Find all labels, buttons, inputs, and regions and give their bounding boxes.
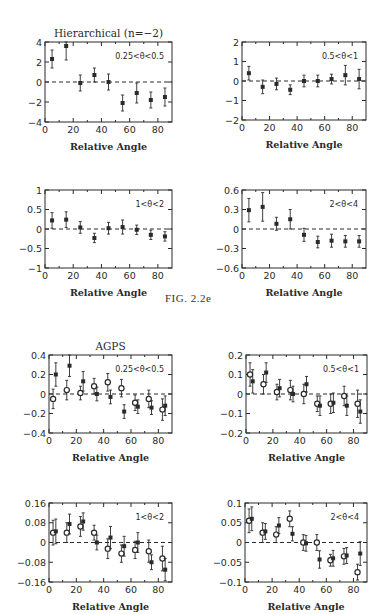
data-point-square [81, 379, 85, 383]
data-point-square [247, 71, 251, 75]
y-tick-label: −0.4 [23, 428, 46, 439]
data-point-square [121, 225, 125, 229]
data-point-square [109, 395, 113, 399]
x-tick-label: 80 [152, 270, 164, 281]
plot-panel: 020406080−0.1−0.0500.050.12<θ<4Relative … [213, 498, 367, 613]
data-point-square [358, 410, 362, 414]
x-tick-label: 20 [67, 270, 79, 281]
y-tick-label: 1 [233, 56, 239, 67]
y-tick-label: −2 [225, 115, 239, 126]
x-tick-label: 80 [152, 124, 164, 135]
data-point-square [163, 95, 167, 99]
x-tick-label: 40 [95, 124, 107, 135]
data-point-square [316, 79, 320, 83]
y-tick-label: 0 [233, 76, 239, 87]
x-tick-label: 20 [266, 584, 278, 595]
data-point-square [50, 218, 54, 222]
x-tick-label: 20 [70, 584, 82, 595]
plot-panel: 020406080−1−0.500.511<θ<2Relative Angle [19, 185, 172, 299]
data-point-square [358, 552, 362, 556]
x-tick-label: 60 [124, 124, 136, 135]
data-point-square [64, 218, 68, 222]
x-tick-label: 40 [291, 122, 303, 133]
x-tick-label: 60 [319, 122, 331, 133]
x-axis-label: Relative Angle [70, 141, 147, 152]
data-point-square [95, 392, 99, 396]
y-tick-label: 0 [40, 537, 46, 548]
data-point-circle [64, 530, 69, 535]
data-point-square [149, 98, 153, 102]
x-tick-label: 60 [125, 435, 137, 446]
data-point-square [247, 208, 251, 212]
data-point-square [357, 77, 361, 81]
x-tick-label: 80 [346, 270, 358, 281]
y-tick-label: −0.2 [23, 408, 46, 419]
y-tick-label: −0.5 [19, 243, 42, 254]
y-tick-label: 0.08 [25, 517, 46, 528]
x-tick-label: 0 [42, 270, 48, 281]
x-tick-label: 40 [293, 584, 305, 595]
data-point-square [136, 541, 140, 545]
data-point-square [331, 556, 335, 560]
data-point-circle [274, 532, 279, 537]
data-point-square [302, 79, 306, 83]
y-tick-label: 0.5 [27, 204, 42, 215]
data-point-square [291, 392, 295, 396]
x-tick-label: 20 [264, 270, 276, 281]
y-tick-label: 2 [233, 37, 239, 48]
data-point-square [81, 520, 85, 524]
data-point-circle [314, 540, 319, 545]
range-annotation: 0.25<θ<0.5 [115, 365, 164, 374]
data-point-square [261, 205, 265, 209]
plot-title: Hierarchical (n=−2) [54, 27, 163, 39]
x-tick-label: 0 [42, 124, 48, 135]
data-point-square [163, 404, 167, 408]
data-point-square [345, 554, 349, 558]
data-point-square [95, 541, 99, 545]
plot-panel: 020406080−4−2024Hierarchical (n=−2)0.25<… [28, 27, 172, 152]
data-point-square [68, 364, 72, 368]
data-point-square [274, 82, 278, 86]
x-axis-label: Relative Angle [267, 601, 344, 612]
range-annotation: 1<θ<2 [136, 513, 164, 522]
data-point-square [318, 404, 322, 408]
data-point-circle [287, 516, 292, 521]
y-tick-label: −0.1 [219, 577, 242, 588]
data-point-square [122, 544, 126, 548]
data-point-square [107, 80, 111, 84]
x-tick-label: 60 [124, 270, 136, 281]
x-tick-label: 40 [291, 270, 303, 281]
data-point-square [54, 529, 58, 533]
y-tick-label: 0.2 [31, 369, 46, 380]
x-tick-label: 40 [98, 584, 110, 595]
x-axis-label: Relative Angle [72, 601, 149, 612]
x-tick-label: 20 [67, 124, 79, 135]
figure-canvas: 020406080−4−2024Hierarchical (n=−2)0.25<… [0, 0, 389, 614]
data-point-circle [133, 547, 138, 552]
data-point-square [107, 226, 111, 230]
y-tick-label: −0.08 [17, 557, 46, 568]
data-point-circle [355, 570, 360, 575]
data-point-circle [105, 380, 110, 385]
data-point-circle [247, 372, 252, 377]
range-annotation: 0.5<θ<1 [322, 52, 358, 61]
x-tick-label: 40 [294, 435, 306, 446]
data-point-square [78, 81, 82, 85]
x-tick-label: 80 [346, 122, 358, 133]
x-tick-label: 60 [319, 270, 331, 281]
data-point-square [68, 522, 72, 526]
range-annotation: 2<θ<4 [330, 200, 358, 209]
y-tick-label: 1 [36, 185, 42, 196]
x-tick-label: 40 [98, 435, 110, 446]
x-tick-label: 80 [347, 584, 359, 595]
x-tick-label: 80 [152, 584, 164, 595]
data-point-circle [355, 401, 360, 406]
data-point-square [357, 239, 361, 243]
data-point-square [251, 379, 255, 383]
data-point-square [149, 233, 153, 237]
data-point-square [288, 217, 292, 221]
x-tick-label: 40 [95, 270, 107, 281]
data-point-square [92, 236, 96, 240]
data-point-square [316, 240, 320, 244]
plot-panel: 020406080−2−10120.5<θ<1Relative Angle [225, 37, 366, 151]
